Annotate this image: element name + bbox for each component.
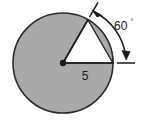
- degree-symbol-icon: °: [131, 18, 134, 25]
- angle-label: 60: [114, 19, 128, 33]
- geometry-figure: 5 60 °: [0, 0, 146, 121]
- radius-label: 5: [82, 69, 89, 83]
- center-dot: [60, 60, 66, 66]
- figure-canvas: 5 60 °: [0, 0, 146, 121]
